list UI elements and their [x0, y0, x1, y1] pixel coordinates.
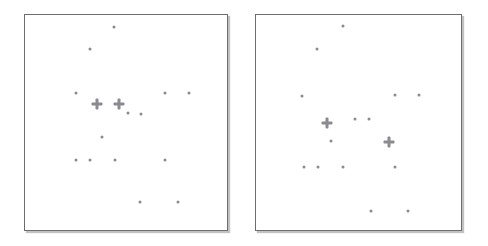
scatter-point [113, 26, 116, 29]
scatter-point [394, 166, 397, 169]
scatter-point [114, 159, 117, 162]
scatter-point [75, 159, 78, 162]
scatter-point [89, 48, 92, 51]
plus-marker [114, 99, 125, 110]
plus-marker-vertical-bar [326, 118, 329, 129]
scatter-point [188, 92, 191, 95]
scatter-point [164, 92, 167, 95]
scatter-point [127, 112, 130, 115]
plus-marker [384, 137, 395, 148]
scatter-point [342, 166, 345, 169]
plus-marker [92, 99, 103, 110]
scatter-point [354, 118, 357, 121]
scatter-point [418, 94, 421, 97]
scatter-point [370, 210, 373, 213]
scatter-point [303, 166, 306, 169]
right-panel[interactable] [255, 14, 462, 231]
scatter-point [317, 166, 320, 169]
plus-marker-vertical-bar [388, 137, 391, 148]
scatter-point [342, 25, 345, 28]
plus-marker [322, 118, 333, 129]
right-panel-plot-area[interactable] [256, 15, 461, 230]
scatter-point [101, 136, 104, 139]
scatter-point [316, 48, 319, 51]
scatter-point [301, 95, 304, 98]
left-panel[interactable] [24, 14, 228, 231]
scatter-point [330, 140, 333, 143]
scatter-point [394, 94, 397, 97]
plus-marker-vertical-bar [96, 99, 99, 110]
scatter-point [89, 159, 92, 162]
scatter-point [407, 210, 410, 213]
figure-root [0, 0, 488, 246]
scatter-point [368, 118, 371, 121]
scatter-point [139, 201, 142, 204]
scatter-point [164, 159, 167, 162]
scatter-point [75, 92, 78, 95]
plus-marker-vertical-bar [118, 99, 121, 110]
scatter-point [140, 113, 143, 116]
scatter-point [177, 201, 180, 204]
left-panel-plot-area[interactable] [25, 15, 227, 230]
